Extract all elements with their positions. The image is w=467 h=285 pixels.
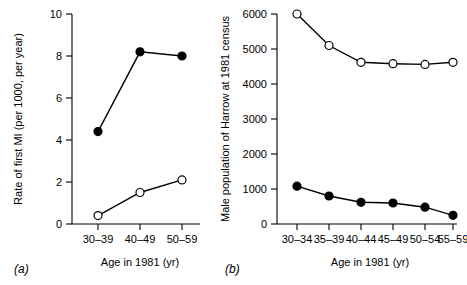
panel-b-ytick-1: 1000 <box>243 183 267 195</box>
panel-b-xtick-5: 55–59 <box>438 233 467 245</box>
panel-b-series-open-markers <box>293 10 457 68</box>
panel-a-y-ticks <box>66 14 72 224</box>
panel-a-ytick-4: 8 <box>56 50 62 62</box>
chart-panel-b: 0 1000 2000 3000 4000 5000 6000 30–34 35… <box>215 0 467 285</box>
panel-a-ytick-5: 10 <box>50 8 62 20</box>
panel-a-ytick-1: 2 <box>56 176 62 188</box>
panel-b-series-open-line <box>297 14 453 64</box>
panel-b-xtick-0: 30–34 <box>282 233 313 245</box>
panel-b-ytick-3: 3000 <box>243 113 267 125</box>
panel-a-xtick-2: 50–59 <box>167 233 198 245</box>
panel-b-x-axis-title: Age in 1981 (yr) <box>331 256 409 268</box>
panel-b-ytick-2: 2000 <box>243 148 267 160</box>
panel-a-ytick-0: 0 <box>56 218 62 230</box>
panel-a-svg: 0 2 4 6 8 10 30–39 40–49 50–59 Rate of f… <box>0 0 215 285</box>
panel-a-series-filled-markers <box>94 48 186 136</box>
panel-b-series-filled-markers <box>293 182 457 219</box>
panel-a-x-ticks <box>98 224 182 230</box>
panel-b-y-ticks <box>271 14 277 224</box>
panel-b-ytick-4: 4000 <box>243 78 267 90</box>
panel-a-series-open-line <box>98 180 182 216</box>
panel-b-series-filled-line <box>297 186 453 215</box>
panel-b-xtick-1: 35–39 <box>314 233 345 245</box>
figure-container: 0 2 4 6 8 10 30–39 40–49 50–59 Rate of f… <box>0 0 467 285</box>
panel-b-xtick-3: 45–49 <box>378 233 409 245</box>
panel-a-y-axis-title: Rate of first MI (per 1000, per year) <box>12 33 24 205</box>
panel-b-xtick-4: 50–54 <box>410 233 441 245</box>
panel-b-ytick-5: 5000 <box>243 43 267 55</box>
panel-a-series-filled-line <box>98 52 182 132</box>
panel-b-svg: 0 1000 2000 3000 4000 5000 6000 30–34 35… <box>215 0 467 285</box>
panel-b-ytick-0: 0 <box>261 218 267 230</box>
panel-a-letter: (a) <box>14 262 29 276</box>
chart-panel-a: 0 2 4 6 8 10 30–39 40–49 50–59 Rate of f… <box>0 0 215 285</box>
panel-a-ytick-2: 4 <box>56 134 62 146</box>
panel-b-y-axis-title: Male population of Harrow at 1981 census <box>219 15 231 222</box>
panel-a-x-axis-title: Age in 1981 (yr) <box>101 256 179 268</box>
panel-b-xtick-2: 40–44 <box>346 233 377 245</box>
panel-a-xtick-0: 30–39 <box>83 233 114 245</box>
panel-b-letter: (b) <box>225 262 240 276</box>
panel-b-ytick-6: 6000 <box>243 8 267 20</box>
panel-a-ytick-3: 6 <box>56 92 62 104</box>
panel-a-xtick-1: 40–49 <box>125 233 156 245</box>
panel-b-x-ticks <box>297 224 453 230</box>
